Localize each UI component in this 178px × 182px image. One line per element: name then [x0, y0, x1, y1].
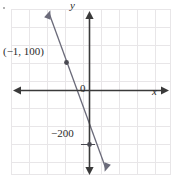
- point-marker-neg1-100: [64, 60, 69, 65]
- origin-label: 0: [80, 83, 86, 94]
- graph-figure: y x 0 (−1, 100) −200: [0, 0, 178, 182]
- y-intercept-annotation-label: −200: [51, 128, 74, 139]
- figure-bullet-icon: [3, 7, 5, 9]
- data-point-markers: [11, 9, 171, 175]
- x-axis-label: x: [152, 86, 157, 97]
- plot-area: [11, 9, 171, 175]
- point-annotation-label: (−1, 100): [3, 46, 44, 57]
- y-axis-label: y: [70, 0, 75, 11]
